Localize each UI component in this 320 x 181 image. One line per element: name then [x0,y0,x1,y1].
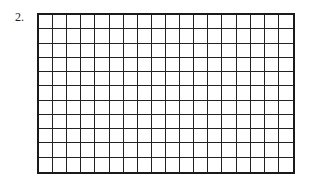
grid-cell [251,158,265,172]
grid-cell [39,15,53,29]
grid-cell [95,129,109,143]
grid-cell [39,101,53,115]
grid-cell [265,15,279,29]
grid-cell [95,158,109,172]
grid-paper [37,13,295,174]
grid-cell [237,72,251,86]
grid-cell [110,115,124,129]
grid-cell [222,44,236,58]
grid-cell [81,158,95,172]
grid-cell [110,86,124,100]
grid-cell [124,115,138,129]
grid-cell [251,44,265,58]
grid-cell [152,58,166,72]
grid-cell [237,86,251,100]
grid-cell [180,115,194,129]
grid-cell [166,58,180,72]
grid-cell [222,15,236,29]
grid-cell [67,44,81,58]
grid-cell [194,15,208,29]
grid-cell [95,101,109,115]
grid-cell [265,101,279,115]
grid-cell [166,158,180,172]
grid-cell [39,72,53,86]
grid-cell [53,72,67,86]
grid-cell [166,143,180,157]
grid-cell [222,129,236,143]
grid-cell [53,86,67,100]
grid-cell [67,29,81,43]
grid-cell [279,15,293,29]
grid-cell [81,143,95,157]
grid-cell [251,72,265,86]
grid-cell [67,129,81,143]
grid-cell [237,143,251,157]
grid-cell [194,158,208,172]
grid-cell [152,101,166,115]
grid-cell [110,44,124,58]
grid-cell [39,86,53,100]
grid-cell [110,143,124,157]
grid-cell [222,115,236,129]
grid-cell [279,86,293,100]
grid-cell [237,129,251,143]
grid-cell [152,86,166,100]
grid-cell [81,15,95,29]
grid-cell [208,158,222,172]
grid-cell [110,129,124,143]
grid-cell [124,101,138,115]
grid-cell [95,29,109,43]
grid-cell [208,58,222,72]
grid-cell [166,15,180,29]
grid-cell [251,15,265,29]
grid-cell [251,58,265,72]
grid-cell [138,115,152,129]
grid-cell [152,44,166,58]
grid-cell [222,143,236,157]
grid-cell [265,115,279,129]
grid-cell [194,101,208,115]
grid-cell [124,72,138,86]
grid-cell [110,158,124,172]
grid-cell [194,29,208,43]
grid-cell [222,58,236,72]
grid-cell [95,143,109,157]
grid-cell [39,29,53,43]
grid-cell [194,86,208,100]
grid-cell [180,15,194,29]
grid-cell [208,72,222,86]
grid-cell [279,58,293,72]
grid-cell [237,44,251,58]
grid-cell [265,86,279,100]
grid-cell [39,158,53,172]
grid-cell [124,129,138,143]
grid-cell [67,158,81,172]
grid-cell [279,115,293,129]
grid-cell [265,129,279,143]
grid-cell [237,15,251,29]
grid-cell [152,143,166,157]
grid-cell [138,29,152,43]
grid-cell [279,158,293,172]
grid-cell [67,115,81,129]
grid-cell [251,29,265,43]
grid-cell [95,44,109,58]
grid-cell [39,44,53,58]
grid-cell [138,143,152,157]
grid-cell [138,101,152,115]
grid-cell [53,101,67,115]
grid-cell [180,129,194,143]
grid-cell [166,86,180,100]
grid-cell [67,101,81,115]
grid-cell [95,58,109,72]
grid-cell [67,72,81,86]
grid-cell [180,158,194,172]
grid-cell [124,86,138,100]
grid-cell [237,58,251,72]
grid-cell [222,158,236,172]
grid-cell [194,44,208,58]
grid-cell [208,101,222,115]
grid-cell [180,86,194,100]
grid-cell [81,29,95,43]
grid-cell [279,72,293,86]
